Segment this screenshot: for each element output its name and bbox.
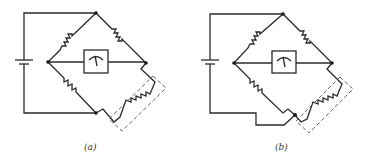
resistor-lower-left-b (234, 63, 295, 115)
resistor-upper-right-b (283, 14, 332, 63)
resistor-upper-right-a (96, 13, 146, 63)
gauge-backing-b (296, 77, 353, 133)
resistor-upper-left-b (234, 14, 283, 63)
panel-label-b: (b) (275, 142, 288, 152)
wire-bottom-a (24, 64, 96, 113)
battery-icon (201, 60, 219, 64)
resistor-upper-left-a (48, 13, 96, 62)
panel-a-circuit (15, 11, 166, 131)
panel-b-circuit (201, 12, 353, 133)
galvanometer-icon (84, 50, 108, 73)
strain-gauge-b (295, 63, 353, 133)
bridge-circuit-diagram (0, 0, 366, 159)
galvanometer-icon (272, 51, 296, 73)
gauge-backing-a (109, 76, 166, 131)
panel-label-a: (a) (84, 142, 96, 152)
battery-icon (15, 60, 33, 64)
resistor-lower-left-a (48, 62, 96, 113)
wire-top-a (24, 13, 96, 60)
